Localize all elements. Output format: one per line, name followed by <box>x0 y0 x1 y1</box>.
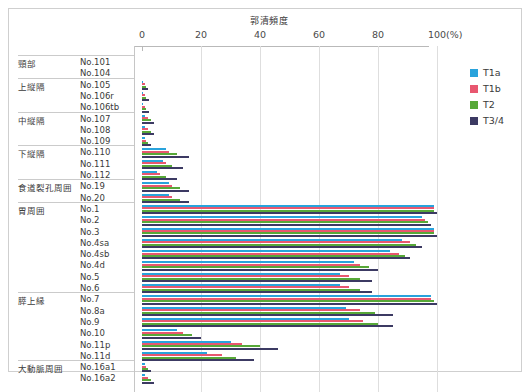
bar-no4d-T34 <box>142 269 378 271</box>
legend-swatch-icon-T34 <box>470 117 478 125</box>
bar-no5-T34 <box>142 280 372 282</box>
legend-label: T1a <box>483 67 501 78</box>
bar-no1-T34 <box>142 212 437 214</box>
bar-no108-T34 <box>142 133 154 135</box>
bar-no4sa-T34 <box>142 246 422 248</box>
bar-no110-T34 <box>142 156 189 158</box>
bar-no8a-T34 <box>142 314 393 316</box>
legend-swatch-icon-T2 <box>470 101 478 109</box>
bar-no106r-T34 <box>142 99 149 101</box>
legend-label: T2 <box>483 99 495 110</box>
bar-no106tb-T34 <box>142 111 149 113</box>
bar-no3-T34 <box>142 235 437 237</box>
y-axis-line <box>134 46 135 392</box>
bar-no19-T34 <box>142 190 189 192</box>
legend-label: T3/4 <box>483 115 504 126</box>
bar-no16a1-T34 <box>142 370 151 372</box>
legend-swatch-icon-T1b <box>470 85 478 93</box>
bar-no9-T34 <box>142 325 393 327</box>
bar-no16a2-T34 <box>142 382 154 384</box>
legend-swatch-icon-T1a <box>470 69 478 77</box>
bar-no7-T34 <box>142 303 437 305</box>
legend-item-T2[interactable]: T2 <box>470 94 504 110</box>
bar-no112-T34 <box>142 178 177 180</box>
chart-legend: T1aT1bT2T3/4 <box>470 62 504 126</box>
legend-label: T1b <box>483 83 501 94</box>
legend-item-T1b[interactable]: T1b <box>470 78 504 94</box>
bar-no111-T34 <box>142 167 183 169</box>
bar-no6-T34 <box>142 291 372 293</box>
bar-no4sb-T34 <box>142 257 410 259</box>
bar-no109-T34 <box>142 144 151 146</box>
bar-no10-T34 <box>142 337 201 339</box>
bar-no11d-T34 <box>142 359 254 361</box>
bar-no107-T34 <box>142 122 154 124</box>
bar-no11p-T34 <box>142 348 278 350</box>
legend-item-T34[interactable]: T3/4 <box>470 110 504 126</box>
legend-item-T1a[interactable]: T1a <box>470 62 504 78</box>
bar-no105-T34 <box>142 88 148 90</box>
bar-no2-T34 <box>142 224 431 226</box>
bar-no20-T34 <box>142 201 189 203</box>
